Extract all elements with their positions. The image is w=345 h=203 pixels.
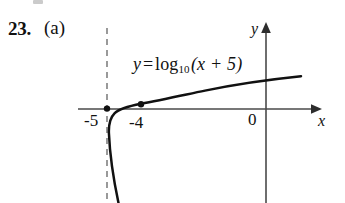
y-axis-label: y bbox=[251, 20, 258, 38]
equation-base: 10 bbox=[179, 63, 190, 75]
x-tick-label-minus4: -4 bbox=[129, 113, 143, 133]
equation-argument: (x + 5) bbox=[191, 54, 243, 74]
asymptote-axis-point bbox=[104, 105, 110, 111]
figure-page: 23. (a) y x 0 -5 -4 y = log10 (x + 5) bbox=[0, 0, 345, 203]
origin-label: 0 bbox=[248, 110, 257, 130]
x-axis-label: x bbox=[318, 112, 325, 130]
log-curve bbox=[109, 76, 301, 203]
x-tick-label-minus5: -5 bbox=[84, 111, 98, 131]
equation-lhs: y bbox=[133, 54, 141, 74]
graph-figure bbox=[0, 0, 345, 203]
equation-annotation: y = log10 (x + 5) bbox=[133, 54, 242, 75]
up-arrowhead-icon bbox=[261, 22, 271, 33]
equation-function-name: log bbox=[155, 54, 179, 74]
x-intercept-point bbox=[138, 101, 144, 107]
equation-equals: = bbox=[143, 54, 153, 74]
